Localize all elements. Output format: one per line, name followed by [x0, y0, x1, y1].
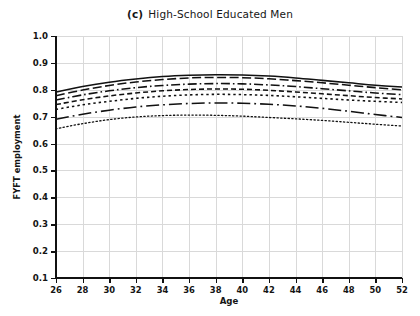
chart-title: (c)High-School Educated Men: [0, 8, 420, 20]
x-tick-label: 36: [183, 285, 195, 295]
y-tick-label: 0.6: [33, 139, 48, 149]
y-tick-label: 0.4: [33, 192, 48, 202]
x-tick-label: 28: [77, 285, 89, 295]
x-tick-label: 26: [50, 285, 62, 295]
x-tick-label: 34: [157, 285, 169, 295]
x-tick-label: 50: [370, 285, 382, 295]
x-tick-mark: [296, 278, 297, 283]
x-tick-mark: [269, 278, 270, 283]
series-line-series-2: [56, 77, 402, 95]
x-tick-mark: [136, 278, 137, 283]
x-tick-mark: [162, 278, 163, 283]
x-tick-mark: [402, 278, 403, 283]
x-tick-mark: [83, 278, 84, 283]
y-axis-title-text: FYFT employment: [11, 115, 21, 200]
x-tick-mark: [109, 278, 110, 283]
series-layer: [56, 36, 402, 278]
panel-tag: (c): [127, 8, 143, 20]
x-tick-label: 46: [316, 285, 328, 295]
gridline-vertical: [402, 36, 403, 278]
x-axis-title: Age: [56, 296, 402, 306]
y-tick-label: 0.5: [33, 165, 48, 175]
chart-title-text: High-School Educated Men: [148, 8, 293, 20]
x-tick-mark: [242, 278, 243, 283]
y-tick-label: 1.0: [33, 31, 48, 41]
y-tick-label: 0.3: [33, 219, 48, 229]
x-tick-label: 30: [103, 285, 115, 295]
x-tick-label: 40: [236, 285, 248, 295]
y-tick-label: 0.9: [33, 58, 48, 68]
x-tick-label: 42: [263, 285, 275, 295]
plot-area: 0.10.20.30.40.50.60.70.80.91.02628303234…: [56, 36, 402, 278]
x-tick-label: 38: [210, 285, 222, 295]
x-tick-label: 44: [290, 285, 302, 295]
y-tick-label: 0.2: [33, 246, 48, 256]
x-tick-label: 48: [343, 285, 355, 295]
chart-figure: (c)High-School Educated Men FYFT employm…: [0, 0, 420, 316]
y-tick-label: 0.7: [33, 112, 48, 122]
x-tick-label: 32: [130, 285, 142, 295]
x-tick-mark: [322, 278, 323, 283]
y-tick-label: 0.1: [33, 273, 48, 283]
x-tick-mark: [56, 278, 57, 283]
x-tick-mark: [216, 278, 217, 283]
y-axis-title: FYFT employment: [9, 36, 23, 278]
x-tick-mark: [349, 278, 350, 283]
series-line-series-6: [56, 103, 402, 119]
series-line-series-7: [56, 115, 402, 129]
x-tick-mark: [189, 278, 190, 283]
x-tick-label: 52: [396, 285, 408, 295]
x-tick-mark: [375, 278, 376, 283]
y-tick-label: 0.8: [33, 85, 48, 95]
